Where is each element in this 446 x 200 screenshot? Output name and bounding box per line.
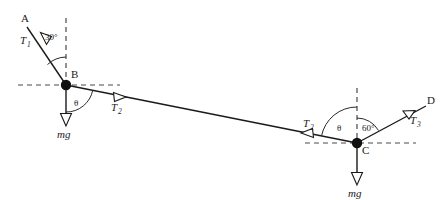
label-weight-c: mg	[348, 187, 362, 199]
label-force-t3-subscript: 3	[416, 120, 421, 129]
angle-arcs-group	[48, 57, 379, 136]
label-force-t1-base: T	[20, 34, 27, 46]
arrowhead-weight-c	[352, 173, 363, 186]
label-angle-theta-b: θ	[74, 98, 78, 108]
guide-lines-group	[18, 18, 416, 143]
label-force-t1: T 1	[20, 34, 31, 49]
label-force-t3: T 3	[410, 114, 421, 129]
label-force-t3-base: T	[410, 114, 417, 126]
force-arrowheads-group	[41, 33, 416, 186]
diagram-canvas: A B C D T 1 T 2 T 2 T 3 mg mg 30° θ θ 60	[0, 0, 446, 200]
node-dot-c	[352, 138, 362, 148]
angle-arc-theta-b	[66, 90, 93, 112]
label-angle-theta-c: θ	[337, 123, 341, 133]
label-force-t2-left: T 2	[111, 101, 122, 116]
label-point-c: C	[362, 144, 369, 156]
label-force-t2-left-base: T	[111, 101, 118, 113]
node-dot-b	[61, 80, 71, 90]
label-weight-b: mg	[57, 128, 71, 140]
label-angle-30: 30°	[45, 32, 58, 42]
label-point-b: B	[71, 68, 78, 80]
label-angle-60: 60°	[362, 123, 375, 133]
label-force-t2-right-base: T	[303, 117, 310, 129]
label-force-t1-subscript: 1	[27, 40, 31, 49]
label-force-t2-right-subscript: 2	[310, 123, 314, 132]
label-point-a: A	[21, 12, 29, 24]
physics-free-body-diagram: A B C D T 1 T 2 T 2 T 3 mg mg 30° θ θ 60	[0, 0, 446, 200]
label-force-t2-left-subscript: 2	[118, 107, 122, 116]
label-point-d: D	[427, 94, 435, 106]
arrowhead-weight-b	[61, 114, 72, 127]
